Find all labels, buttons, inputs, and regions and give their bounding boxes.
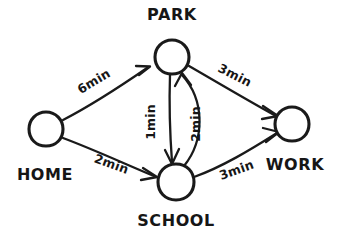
edge-label-park-school: 1min bbox=[143, 104, 158, 140]
graph-drawing: PARK HOME SCHOOL WORK 6min 3min 2min 3mi… bbox=[0, 0, 348, 240]
node-school-circle[interactable] bbox=[158, 164, 194, 200]
node-home-circle[interactable] bbox=[29, 112, 63, 146]
node-park-circle[interactable] bbox=[155, 40, 189, 74]
node-work-circle[interactable] bbox=[275, 107, 309, 141]
node-home[interactable] bbox=[29, 112, 63, 146]
node-park[interactable] bbox=[155, 40, 189, 74]
node-label-school: SCHOOL bbox=[137, 211, 215, 230]
node-school[interactable] bbox=[158, 164, 194, 200]
edge-park-school bbox=[165, 75, 179, 164]
node-label-home: HOME bbox=[17, 165, 73, 184]
node-label-work: WORK bbox=[266, 155, 324, 174]
edge-label-school-work: 3min bbox=[217, 157, 256, 183]
node-label-park: PARK bbox=[147, 5, 197, 24]
edge-park-school-line bbox=[170, 75, 172, 162]
diagram-canvas: PARK HOME SCHOOL WORK 6min 3min 2min 3mi… bbox=[0, 0, 348, 240]
edge-label-home-park: 6min bbox=[75, 66, 113, 97]
node-work[interactable] bbox=[275, 107, 309, 141]
edge-label-home-school: 2min bbox=[92, 151, 131, 177]
edge-label-school-park: 2min bbox=[188, 106, 203, 142]
